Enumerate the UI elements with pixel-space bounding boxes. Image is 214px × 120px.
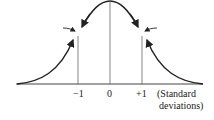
left-inflection-arrow: [63, 28, 75, 31]
tick-label-minus-one: −1: [73, 88, 84, 99]
axis-unit-label-line1: (Standard: [157, 88, 196, 99]
bell-curve-top-left-arrow: [82, 14, 90, 27]
axis-unit-label-line2: deviations): [159, 100, 203, 111]
bell-curve-left-tail: [17, 40, 73, 84]
tick-label-zero: 0: [107, 88, 112, 99]
bell-curve-top-right-arrow: [130, 14, 138, 27]
bell-curve-right-tail: [147, 40, 203, 84]
tick-label-plus-one: +1: [136, 88, 147, 99]
right-inflection-arrow: [145, 28, 157, 31]
